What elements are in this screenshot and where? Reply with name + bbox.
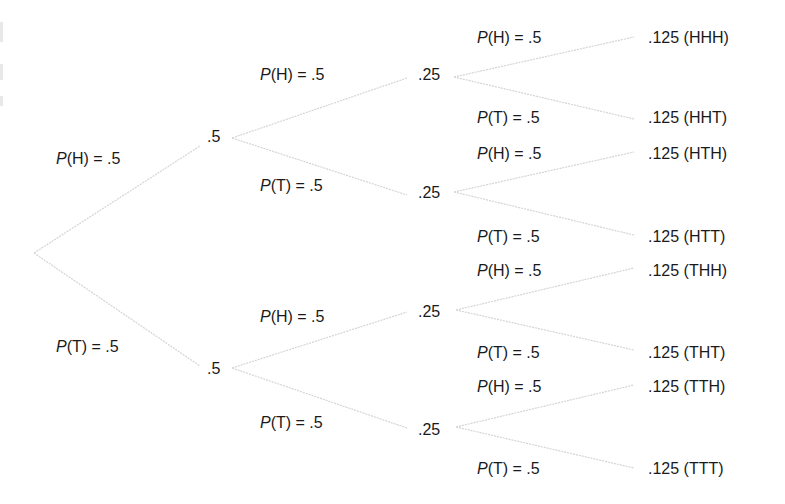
probability-expression: (T) = .5 [488,344,540,361]
probability-symbol: P [260,177,271,194]
branch-label-HTT: P(T) = .5 [477,228,540,246]
outcome-THT: .125 (THT) [648,344,725,362]
node-HT-probability: .25 [418,184,440,202]
probability-expression: (T) = .5 [271,414,323,431]
branch-label-THT: P(T) = .5 [477,344,540,362]
node-T-probability: .5 [207,360,220,378]
probability-expression: (T) = .5 [271,177,323,194]
outcome-THH: .125 (THH) [648,262,727,280]
branch-label-TH: P(H) = .5 [260,308,324,326]
probability-expression: (T) = .5 [488,109,540,126]
node-TH-probability: .25 [418,303,440,321]
outcome-TTH: .125 (TTH) [648,378,725,396]
probability-symbol: P [260,308,271,325]
branch-label-TT: P(T) = .5 [260,414,323,432]
probability-expression: (H) = .5 [488,378,542,395]
node-H-probability: .5 [207,128,220,146]
outcome-HHH: .125 (HHH) [648,29,729,47]
branch-label-HT: P(T) = .5 [260,177,323,195]
probability-symbol: P [477,29,488,46]
outcome-HTH: .125 (HTH) [648,145,727,163]
probability-expression: (H) = .5 [271,308,325,325]
tree-branches [0,0,785,504]
probability-symbol: P [56,150,67,167]
probability-expression: (H) = .5 [488,29,542,46]
probability-expression: (T) = .5 [67,338,119,355]
probability-symbol: P [56,338,67,355]
probability-symbol: P [477,344,488,361]
branch-label-H: P(H) = .5 [56,150,120,168]
probability-expression: (H) = .5 [271,66,325,83]
probability-expression: (T) = .5 [488,460,540,477]
node-HH-probability: .25 [418,66,440,84]
branch-label-HHH: P(H) = .5 [477,29,541,47]
probability-symbol: P [477,145,488,162]
probability-expression: (H) = .5 [488,145,542,162]
branch-H-to-HH [232,78,407,138]
probability-expression: (T) = .5 [488,228,540,245]
probability-symbol: P [477,262,488,279]
outcome-HHT: .125 (HHT) [648,109,727,127]
branch-label-TTH: P(H) = .5 [477,378,541,396]
branch-label-HH: P(H) = .5 [260,66,324,84]
probability-symbol: P [477,228,488,245]
branch-label-HTH: P(H) = .5 [477,145,541,163]
branch-label-HHT: P(T) = .5 [477,109,540,127]
probability-symbol: P [477,378,488,395]
probability-expression: (H) = .5 [488,262,542,279]
branch-label-TTT: P(T) = .5 [477,460,540,478]
probability-expression: (H) = .5 [67,150,121,167]
probability-symbol: P [477,460,488,477]
node-TT-probability: .25 [418,421,440,439]
outcome-HTT: .125 (HTT) [648,228,725,246]
branch-label-THH: P(H) = .5 [477,262,541,280]
outcome-TTT: .125 (TTT) [648,460,724,478]
branch-label-T: P(T) = .5 [56,338,119,356]
probability-symbol: P [260,414,271,431]
probability-symbol: P [260,66,271,83]
probability-symbol: P [477,109,488,126]
